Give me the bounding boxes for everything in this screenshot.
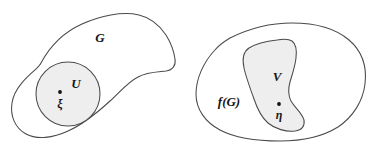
label-xi: ξ: [57, 97, 63, 111]
diagram-canvas: G U ξ f(G) V η: [0, 0, 378, 151]
region-U-circle: [36, 62, 100, 126]
left-region-group: G U ξ: [12, 14, 176, 138]
right-region-group: f(G) V η: [196, 23, 365, 141]
label-V: V: [273, 69, 283, 84]
region-V-shape: [243, 39, 304, 131]
set-mapping-diagram: G U ξ f(G) V η: [0, 0, 378, 151]
label-eta: η: [276, 108, 283, 122]
point-eta-dot: [277, 102, 281, 106]
label-U: U: [71, 76, 81, 91]
point-xi-dot: [58, 90, 62, 94]
label-fG: f(G): [218, 94, 240, 109]
label-G: G: [95, 30, 105, 45]
